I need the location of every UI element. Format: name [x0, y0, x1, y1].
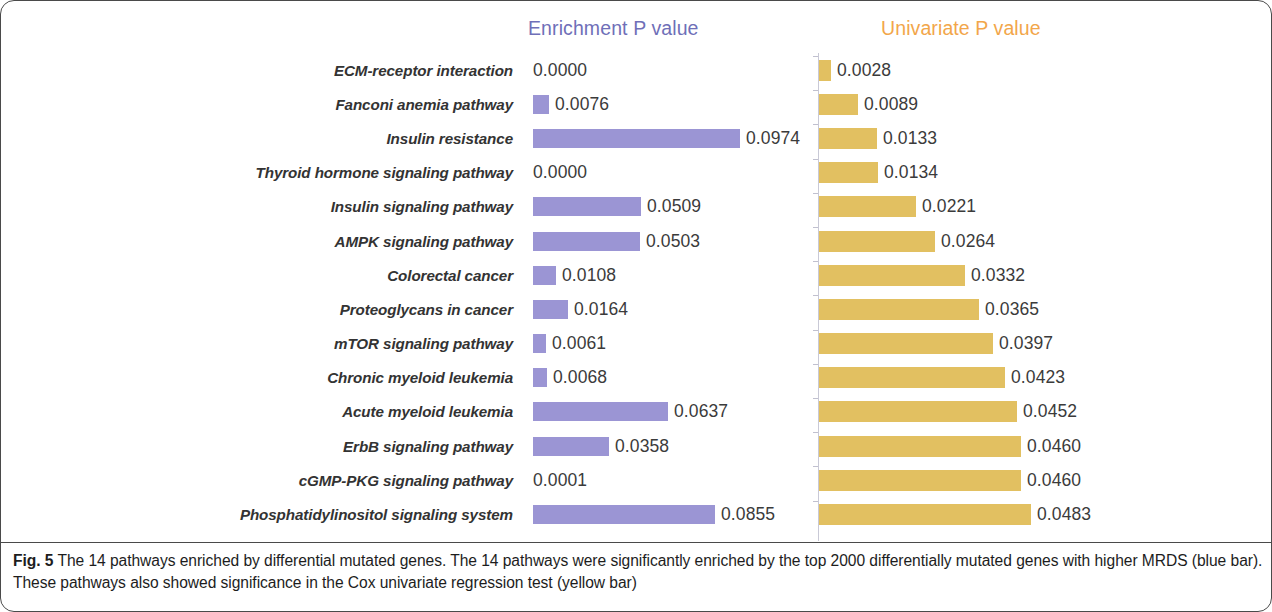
enrichment-value-label: 0.0637: [668, 401, 728, 422]
univariate-bar: [819, 436, 1021, 457]
univariate-bar-group: 0.0221: [819, 190, 976, 224]
enrichment-value-label: 0.0061: [546, 333, 606, 354]
univariate-value-label: 0.0089: [858, 94, 918, 115]
univariate-bar: [819, 333, 993, 354]
enrichment-bar-group: 0.0358: [533, 429, 669, 463]
univariate-bar: [819, 94, 858, 115]
caption-divider: [1, 542, 1272, 543]
enrichment-value-label: 0.0108: [556, 265, 616, 286]
enrichment-value-label: 0.0000: [533, 60, 587, 81]
univariate-bar-group: 0.0264: [819, 224, 995, 258]
enrichment-bar-group: 0.0974: [533, 121, 800, 155]
enrichment-bar: [533, 437, 609, 456]
chart-row: Fanconi anemia pathway0.00760.0089: [1, 87, 1272, 121]
enrichment-bar-group: 0.0000: [533, 156, 587, 190]
axis-tick: [813, 261, 818, 262]
chart-row: ECM-receptor interaction0.00000.0028: [1, 53, 1272, 87]
figure-card: Enrichment P value Univariate P value EC…: [0, 0, 1272, 612]
pathway-label: mTOR signaling pathway: [1, 327, 513, 361]
axis-tick: [813, 159, 818, 160]
univariate-bar-group: 0.0028: [819, 53, 891, 87]
pathway-label: Chronic myeloid leukemia: [1, 361, 513, 395]
univariate-bar: [819, 231, 935, 252]
univariate-bar-group: 0.0423: [819, 361, 1065, 395]
enrichment-value-label: 0.0164: [568, 299, 628, 320]
chart-row: mTOR signaling pathway0.00610.0397: [1, 327, 1272, 361]
univariate-bar-group: 0.0452: [819, 395, 1077, 429]
chart-rows: ECM-receptor interaction0.00000.0028Fanc…: [1, 53, 1272, 532]
univariate-value-label: 0.0423: [1005, 367, 1065, 388]
chart-plot-area: ECM-receptor interaction0.00000.0028Fanc…: [1, 53, 1272, 541]
enrichment-bar-group: 0.0000: [533, 53, 587, 87]
enrichment-value-label: 0.0001: [533, 470, 587, 491]
enrichment-value-label: 0.0068: [547, 367, 607, 388]
chart-row: cGMP-PKG signaling pathway0.00010.0460: [1, 463, 1272, 497]
axis-tick: [813, 501, 818, 502]
chart-row: ErbB signaling pathway0.03580.0460: [1, 429, 1272, 463]
enrichment-bar: [533, 197, 641, 216]
pathway-label: Phosphatidylinositol signaling system: [1, 497, 513, 531]
enrichment-value-label: 0.0000: [533, 162, 587, 183]
univariate-bar: [819, 128, 877, 149]
univariate-value-label: 0.0452: [1017, 401, 1077, 422]
pathway-label: Colorectal cancer: [1, 258, 513, 292]
univariate-bar: [819, 401, 1017, 422]
figure-caption-text: The 14 pathways enriched by differential…: [13, 552, 1262, 591]
axis-tick: [813, 124, 818, 125]
axis-tick: [813, 90, 818, 91]
univariate-value-label: 0.0483: [1031, 504, 1091, 525]
univariate-bar: [819, 367, 1005, 388]
pathway-label: Insulin signaling pathway: [1, 190, 513, 224]
univariate-value-label: 0.0365: [979, 299, 1039, 320]
enrichment-value-label: 0.0509: [641, 196, 701, 217]
univariate-bar-group: 0.0460: [819, 429, 1081, 463]
enrichment-bar: [533, 129, 740, 148]
chart-row: Colorectal cancer0.01080.0332: [1, 258, 1272, 292]
univariate-value-label: 0.0028: [831, 60, 891, 81]
axis-tick: [813, 193, 818, 194]
chart-row: Acute myeloid leukemia0.06370.0452: [1, 395, 1272, 429]
pathway-label: ErbB signaling pathway: [1, 429, 513, 463]
axis-tick: [813, 432, 818, 433]
chart-row: Insulin resistance0.09740.0133: [1, 121, 1272, 155]
enrichment-bar: [533, 300, 568, 319]
enrichment-bar-group: 0.0061: [533, 327, 606, 361]
enrichment-bar-group: 0.0855: [533, 497, 775, 531]
enrichment-value-label: 0.0974: [740, 128, 800, 149]
pathway-label: Insulin resistance: [1, 121, 513, 155]
univariate-value-label: 0.0134: [878, 162, 938, 183]
univariate-bar: [819, 299, 979, 320]
enrichment-bar-group: 0.0503: [533, 224, 700, 258]
axis-tick: [813, 466, 818, 467]
univariate-bar: [819, 504, 1031, 525]
pathway-label: Acute myeloid leukemia: [1, 395, 513, 429]
univariate-value-label: 0.0264: [935, 231, 995, 252]
figure-caption: Fig. 5 The 14 pathways enriched by diffe…: [13, 550, 1265, 594]
chart-row: Insulin signaling pathway0.05090.0221: [1, 190, 1272, 224]
pathway-label: cGMP-PKG signaling pathway: [1, 463, 513, 497]
axis-tick: [813, 398, 818, 399]
chart-column-headers: Enrichment P value Univariate P value: [1, 17, 1272, 47]
enrichment-bar-group: 0.0108: [533, 258, 616, 292]
enrichment-bar: [533, 334, 546, 353]
univariate-value-label: 0.0332: [965, 265, 1025, 286]
enrichment-p-value-header: Enrichment P value: [528, 17, 699, 40]
enrichment-bar-group: 0.0076: [533, 87, 609, 121]
univariate-p-value-header: Univariate P value: [881, 17, 1041, 40]
univariate-value-label: 0.0397: [993, 333, 1053, 354]
axis-tick: [813, 227, 818, 228]
pathway-label: AMPK signaling pathway: [1, 224, 513, 258]
enrichment-bar: [533, 232, 640, 251]
enrichment-value-label: 0.0076: [549, 94, 609, 115]
enrichment-bar: [533, 95, 549, 114]
univariate-value-label: 0.0133: [877, 128, 937, 149]
axis-tick: [813, 56, 818, 57]
chart-row: Proteoglycans in cancer0.01640.0365: [1, 292, 1272, 326]
univariate-bar: [819, 265, 965, 286]
chart-row: Chronic myeloid leukemia0.00680.0423: [1, 361, 1272, 395]
univariate-value-label: 0.0460: [1021, 470, 1081, 491]
enrichment-bar-group: 0.0068: [533, 361, 607, 395]
univariate-bar: [819, 162, 878, 183]
univariate-bar: [819, 196, 916, 217]
enrichment-bar-group: 0.0637: [533, 395, 728, 429]
